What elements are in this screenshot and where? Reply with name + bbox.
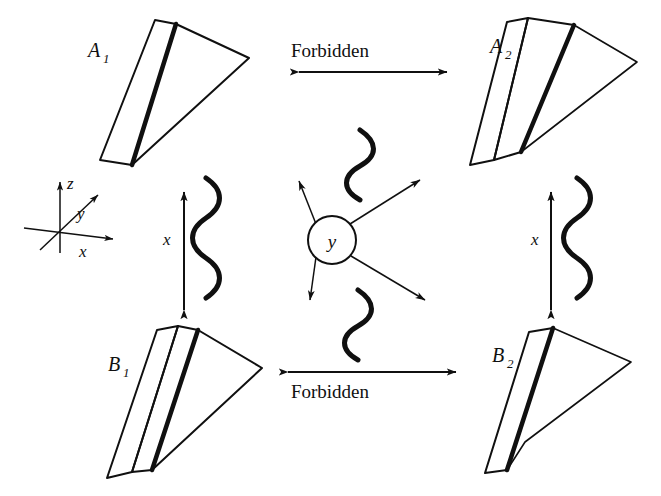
squiggle-left (193, 178, 220, 298)
axis-label-z: z (66, 174, 74, 193)
coordinate-axes: z y x (24, 174, 113, 261)
wedge-A2-fan (521, 25, 637, 152)
scatter-arrow-up-left (299, 181, 316, 224)
axis-x-line (24, 228, 113, 239)
transition-right-x: x (530, 178, 591, 310)
squiggle-center-bottom (345, 290, 372, 360)
squiggle-right (564, 178, 591, 298)
transition-bottom-forbidden: Forbidden (288, 372, 456, 402)
transition-top-forbidden: Forbidden (291, 40, 447, 72)
transition-left-x: x (162, 178, 220, 310)
wedge-A2: A 2 (470, 18, 637, 165)
transition-left-label: x (162, 230, 171, 249)
transition-top-label: Forbidden (291, 40, 370, 61)
wedge-B1-label: B (108, 353, 120, 375)
wedge-A1-label: A (86, 39, 101, 61)
transition-right-label: x (530, 230, 539, 249)
axis-y-line (40, 195, 98, 250)
figure-canvas: z y x A 1 A 2 B 1 (0, 0, 661, 496)
wedge-B1-subscript: 1 (123, 365, 130, 380)
wedge-B2-subscript: 2 (507, 356, 514, 371)
wedge-A2-subscript: 2 (505, 47, 512, 62)
squiggle-center-top (347, 130, 374, 200)
wedge-B2-fan (507, 328, 631, 470)
axis-label-y: y (75, 204, 85, 223)
wedge-B2: B 2 (485, 328, 631, 473)
wedge-A1-subscript: 1 (103, 51, 110, 66)
scattering-vertex: y (299, 130, 425, 360)
wedge-A1: A 1 (86, 20, 249, 165)
axis-label-x: x (78, 242, 87, 261)
transition-bottom-label: Forbidden (291, 381, 370, 402)
wedge-A2-label: A (488, 35, 503, 57)
wedge-B2-label: B (492, 344, 504, 366)
wedge-B1: B 1 (107, 326, 262, 478)
scatter-arrow-down-left (310, 257, 316, 300)
scatter-circle-label: y (326, 231, 337, 252)
wedge-A1-fan (132, 24, 249, 165)
